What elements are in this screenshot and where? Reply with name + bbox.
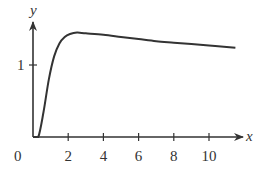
chart: 246810 1 x y 0 [0, 0, 264, 178]
y-axis-label: y [28, 2, 37, 18]
x-tick-label: 4 [100, 148, 108, 164]
y-tick-label: 1 [17, 57, 25, 73]
x-tick-label: 2 [64, 148, 72, 164]
x-tick-label: 6 [135, 148, 143, 164]
origin-label: 0 [14, 148, 22, 164]
axes: 246810 1 [17, 22, 243, 164]
x-axis-label: x [245, 128, 253, 144]
y-ticks: 1 [17, 57, 37, 73]
x-tick-label: 10 [202, 148, 217, 164]
data-curve [33, 33, 235, 137]
x-tick-label: 8 [170, 148, 178, 164]
